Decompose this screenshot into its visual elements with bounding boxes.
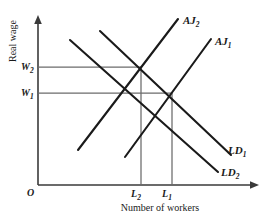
diagram-canvas: AJ2 AJ1 LD1 LD2 W2 W1 L2 L1 O Real wage … <box>0 0 268 216</box>
x-axis-title: Number of workers <box>121 202 199 213</box>
x-tick-label-l2: L2 <box>130 188 141 202</box>
curve-label-aj1: AJ1 <box>214 35 232 50</box>
curve-label-aj2: AJ2 <box>182 14 200 29</box>
curve-label-ld2: LD2 <box>220 166 240 181</box>
x-tick-label-l1: L1 <box>161 188 172 202</box>
demand-curve-group <box>70 31 231 172</box>
y-axis-title: Real wage <box>7 20 18 62</box>
curve-label-ld1: LD1 <box>227 144 246 159</box>
origin-label: O <box>27 187 34 198</box>
y-tick-label-w2: W2 <box>21 61 34 75</box>
economics-diagram: AJ2 AJ1 LD1 LD2 W2 W1 L2 L1 O Real wage … <box>0 0 268 216</box>
curve-aj1-line <box>125 39 211 157</box>
y-axis-arrowhead <box>34 15 42 24</box>
guide-line-group <box>38 67 172 185</box>
curve-aj2-line <box>78 19 178 150</box>
x-axis-arrowhead <box>250 181 259 189</box>
y-tick-label-w1: W1 <box>21 87 34 101</box>
supply-curve-group <box>78 19 211 157</box>
